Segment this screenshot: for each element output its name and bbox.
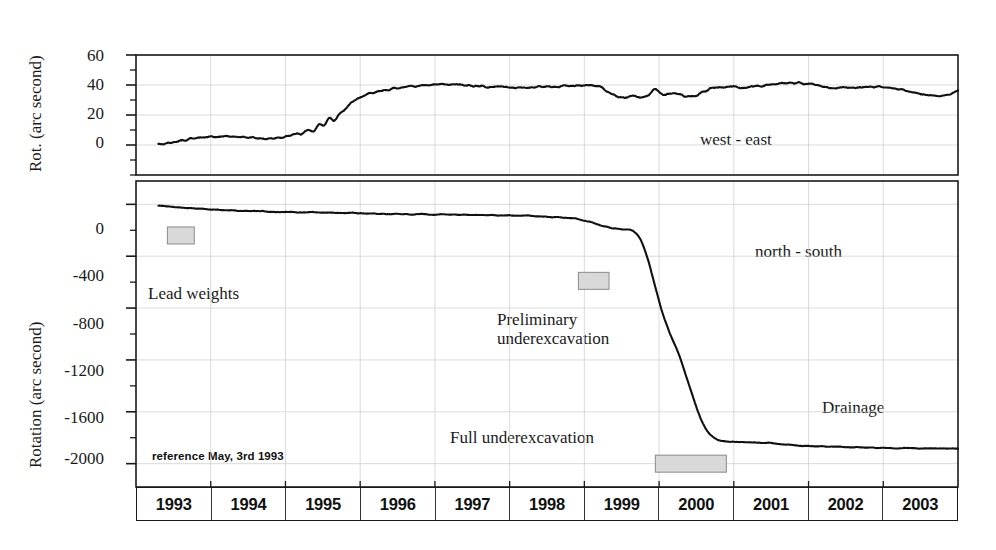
plot-canvas bbox=[0, 0, 996, 550]
x-axis-year-2003: 2003 bbox=[883, 488, 957, 520]
x-axis-year-2001: 2001 bbox=[734, 488, 809, 520]
reference-note: reference May, 3rd 1993 bbox=[152, 450, 284, 462]
x-axis-year-1999: 1999 bbox=[585, 488, 660, 520]
rotation-time-series-figure: Rot. (arc second) Rotation (arc second) … bbox=[0, 0, 996, 550]
bottom-ytick-minus2000: -2000 bbox=[42, 449, 104, 469]
top-panel-frame bbox=[136, 55, 958, 175]
bottom-ytick-minus800: -800 bbox=[42, 314, 104, 334]
top-panel-y-axis-title: Rot. (arc second) bbox=[26, 55, 46, 172]
x-axis-year-1997: 1997 bbox=[436, 488, 511, 520]
bottom-panel-y-axis-title: Rotation (arc second) bbox=[26, 322, 46, 468]
x-axis-year-1993: 1993 bbox=[137, 488, 212, 520]
top-ytick-40: 40 bbox=[56, 75, 104, 95]
bottom-ytick-minus1200: -1200 bbox=[42, 361, 104, 381]
bottom-panel-series-label: north - south bbox=[755, 242, 842, 262]
annotation-lead-weights: Lead weights bbox=[148, 284, 239, 303]
top-ytick-20: 20 bbox=[56, 104, 104, 124]
bottom-ytick-0: 0 bbox=[42, 219, 104, 239]
top-ytick-60: 60 bbox=[56, 46, 104, 66]
bottom-ytick-minus1600: -1600 bbox=[42, 408, 104, 428]
event-box-full-underexcavation bbox=[655, 455, 726, 472]
event-box-lead-weights bbox=[167, 227, 194, 244]
x-axis-year-2002: 2002 bbox=[809, 488, 884, 520]
top-panel-series-label: west - east bbox=[700, 130, 772, 150]
series-line-west-east bbox=[158, 82, 958, 144]
annotation-preliminary-underexcavation: Preliminary underexcavation bbox=[497, 310, 609, 348]
x-axis-year-strip: 1993199419951996199719981999200020012002… bbox=[136, 487, 958, 521]
annotation-full-underexcavation: Full underexcavation bbox=[450, 428, 594, 447]
x-axis-year-1995: 1995 bbox=[286, 488, 361, 520]
top-ytick-0: 0 bbox=[56, 133, 104, 153]
event-box-preliminary-underexcavation bbox=[578, 272, 609, 289]
annotation-drainage: Drainage bbox=[822, 398, 884, 417]
x-axis-year-1994: 1994 bbox=[212, 488, 287, 520]
x-axis-year-1998: 1998 bbox=[510, 488, 585, 520]
x-axis-year-1996: 1996 bbox=[361, 488, 436, 520]
bottom-ytick-minus400: -400 bbox=[42, 266, 104, 286]
x-axis-year-2000: 2000 bbox=[659, 488, 734, 520]
